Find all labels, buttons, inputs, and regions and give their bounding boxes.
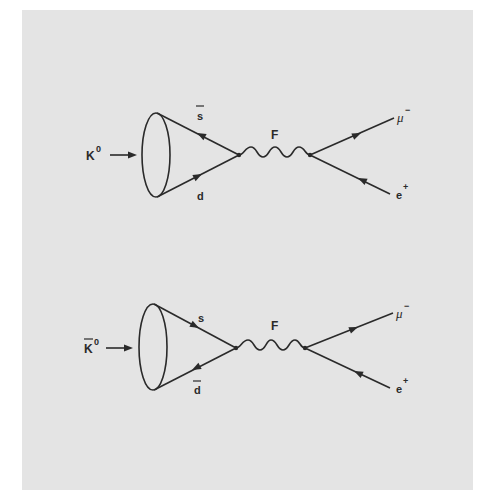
lepton-top-label: μ (395, 306, 403, 321)
quark-top-label: s (198, 312, 204, 324)
lepton-bottom-label: e (396, 383, 402, 395)
figure-panel (22, 10, 473, 490)
lepton-bottom-superscript: + (403, 376, 408, 386)
meson-label: K (86, 149, 95, 163)
meson-label-superscript: 0 (94, 337, 99, 347)
quark-bottom-label: d (194, 384, 201, 396)
meson-label: K (84, 342, 93, 356)
lepton-bottom-superscript: + (403, 182, 408, 192)
lepton-bottom-label: e (396, 189, 402, 201)
lepton-top-superscript: − (405, 105, 410, 115)
lepton-top-label: μ (396, 110, 404, 125)
boson-label: F (271, 128, 278, 142)
boson-label: F (271, 319, 278, 333)
quark-bottom-label: d (197, 190, 204, 202)
quark-top-label: s (197, 110, 203, 122)
lepton-top-superscript: − (404, 301, 409, 311)
feynman-diagram-figure: K 0 s d F μ − e + K (0, 0, 492, 498)
meson-label-superscript: 0 (96, 144, 101, 154)
